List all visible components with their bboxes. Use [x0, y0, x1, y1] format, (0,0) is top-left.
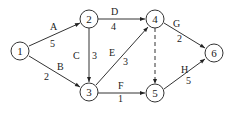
label-G-activity: G [173, 18, 180, 29]
edge-E [96, 27, 148, 85]
edge-G [164, 23, 205, 48]
node-1: 1 [11, 42, 29, 60]
label-D-activity: D [111, 6, 118, 17]
node-4-label: 4 [152, 13, 158, 25]
label-G-duration: 2 [177, 33, 182, 44]
label-C-activity: C [73, 50, 80, 61]
label-A-activity: A [50, 21, 58, 32]
node-1-label: 1 [17, 45, 23, 57]
node-5: 5 [146, 84, 164, 102]
node-4: 4 [146, 10, 164, 28]
label-A-duration: 5 [50, 38, 55, 49]
label-B-activity: B [57, 61, 64, 72]
label-E-duration: 3 [123, 56, 128, 67]
label-E-activity: E [109, 47, 115, 58]
node-3-label: 3 [86, 86, 92, 98]
node-2: 2 [80, 10, 98, 28]
edge-labels: A 5 B 2 C 3 D 4 E 3 F 1 G 2 H 5 [44, 6, 191, 104]
label-B-duration: 2 [44, 71, 49, 82]
label-H-activity: H [181, 64, 188, 75]
label-F-activity: F [118, 80, 124, 91]
label-C-duration: 3 [92, 50, 97, 61]
network-diagram: A 5 B 2 C 3 D 4 E 3 F 1 G 2 H 5 1 2 3 4 … [0, 0, 236, 117]
node-6: 6 [205, 44, 223, 62]
label-D-duration: 4 [111, 21, 116, 32]
label-H-duration: 5 [186, 75, 191, 86]
node-5-label: 5 [152, 87, 158, 99]
node-2-label: 2 [86, 13, 92, 25]
label-F-duration: 1 [118, 93, 123, 104]
node-6-label: 6 [211, 47, 217, 59]
node-3: 3 [80, 83, 98, 101]
